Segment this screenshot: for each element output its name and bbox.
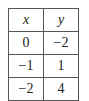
header-y: y (44, 9, 79, 32)
header-x: x (9, 9, 44, 32)
table-row: −1 1 (9, 55, 79, 78)
cell-y: 1 (44, 55, 79, 78)
cell-y: 4 (44, 78, 79, 101)
cell-x: −2 (9, 78, 44, 101)
table-header-row: x y (9, 9, 79, 32)
cell-x: 0 (9, 32, 44, 55)
table-row: −2 4 (9, 78, 79, 101)
table-row: 0 −2 (9, 32, 79, 55)
cell-y: −2 (44, 32, 79, 55)
xy-value-table: x y 0 −2 −1 1 −2 4 (8, 8, 79, 101)
cell-x: −1 (9, 55, 44, 78)
